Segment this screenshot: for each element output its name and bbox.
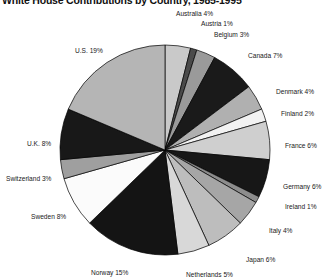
pie-label-norway: Norway 15% xyxy=(91,269,128,277)
pie-label-japan: Japan 6% xyxy=(246,256,275,264)
pie-label-belgium: Belgium 3% xyxy=(214,31,249,39)
pie-label-canada: Canada 7% xyxy=(248,52,282,60)
pie-label-u-s: U.S. 19% xyxy=(75,47,103,55)
pie-slice-group xyxy=(60,45,270,255)
pie-label-u-k: U.K. 8% xyxy=(27,140,51,148)
pie-label-ireland: Ireland 1% xyxy=(285,203,317,211)
pie-label-italy: Italy 4% xyxy=(269,227,292,235)
pie-label-netherlands: Netherlands 5% xyxy=(186,271,233,279)
pie-label-sweden: Sweden 8% xyxy=(31,213,66,221)
pie-label-germany: Germany 6% xyxy=(283,183,321,191)
pie-label-switzerland: Switzerland 3% xyxy=(6,175,51,183)
pie-chart-figure: White House Contributions by Country, 19… xyxy=(0,0,330,279)
pie-label-austria: Austria 1% xyxy=(201,20,233,28)
pie-label-denmark: Denmark 4% xyxy=(276,88,314,96)
pie-label-france: France 6% xyxy=(285,142,317,150)
pie-label-finland: Finland 2% xyxy=(281,110,314,118)
pie-chart-plot-area: Australia 4%Austria 1%Belgium 3%Canada 7… xyxy=(0,0,330,279)
pie-label-australia: Australia 4% xyxy=(176,10,213,18)
